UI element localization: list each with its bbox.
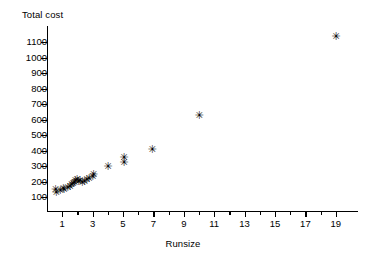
- y-tick-label: 500: [9, 130, 47, 140]
- x-tick-minor: [290, 211, 291, 215]
- x-tick: [214, 211, 215, 217]
- x-tick: [305, 211, 306, 217]
- y-tick-label: 100: [9, 192, 47, 202]
- x-tick-label: 19: [321, 219, 351, 229]
- y-tick-label: 900: [9, 68, 47, 78]
- x-tick-minor: [138, 211, 139, 215]
- x-tick-minor: [260, 211, 261, 215]
- x-tick-label: 1: [47, 219, 77, 229]
- x-tick: [184, 211, 185, 217]
- data-point: [195, 111, 204, 120]
- y-tick-label: 200: [9, 177, 47, 187]
- y-tick-label: 700: [9, 99, 47, 109]
- x-tick: [275, 211, 276, 217]
- x-tick-label: 7: [138, 219, 168, 229]
- x-tick-label: 9: [169, 219, 199, 229]
- x-tick-label: 3: [78, 219, 108, 229]
- x-tick-label: 15: [260, 219, 290, 229]
- x-tick-label: 5: [108, 219, 138, 229]
- x-axis-title: Runsize: [0, 238, 366, 249]
- x-tick-minor: [229, 211, 230, 215]
- y-axis-title: Total cost: [22, 9, 63, 20]
- x-tick: [153, 211, 154, 217]
- data-point: [119, 153, 128, 162]
- x-tick-label: 17: [290, 219, 320, 229]
- x-tick-label: 13: [230, 219, 260, 229]
- data-point: [331, 32, 340, 41]
- data-point: [89, 170, 98, 179]
- x-tick-minor: [199, 211, 200, 215]
- y-tick-label: 1000: [9, 53, 47, 63]
- y-tick-label: 800: [9, 84, 47, 94]
- x-tick-minor: [77, 211, 78, 215]
- x-tick: [245, 211, 246, 217]
- scatter-plot: Total cost 10020030040050060070080090010…: [0, 0, 366, 261]
- data-point: [103, 162, 112, 171]
- x-tick: [93, 211, 94, 217]
- data-point: [147, 145, 156, 154]
- y-tick-label: 1100: [9, 37, 47, 47]
- y-tick-label: 400: [9, 146, 47, 156]
- x-tick-minor: [169, 211, 170, 215]
- x-tick-minor: [321, 211, 322, 215]
- y-tick-label: 300: [9, 161, 47, 171]
- y-axis-line: [47, 26, 48, 212]
- x-tick-label: 11: [199, 219, 229, 229]
- x-tick: [123, 211, 124, 217]
- x-tick: [336, 211, 337, 217]
- x-tick: [62, 211, 63, 217]
- x-tick-minor: [108, 211, 109, 215]
- y-tick-label: 600: [9, 115, 47, 125]
